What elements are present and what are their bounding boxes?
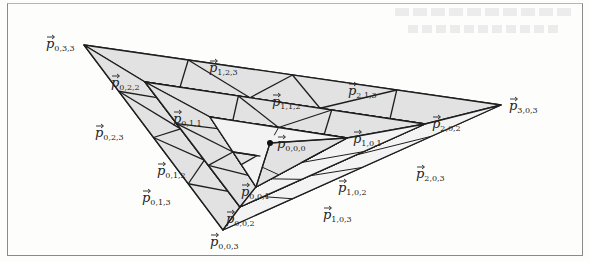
label-text: p1,2,3 xyxy=(209,60,238,77)
apex-point-dot xyxy=(267,140,273,146)
label-p003: p0,0,3 xyxy=(210,233,239,251)
label-text: p1,0,3 xyxy=(323,207,352,224)
label-text: p0,3,3 xyxy=(46,36,75,53)
label-p033: p0,3,3 xyxy=(46,35,75,53)
label-text: p0,2,3 xyxy=(95,125,124,142)
label-p303: p3,0,3 xyxy=(509,97,538,115)
level-2-zig-bottom xyxy=(271,179,302,180)
label-p103: p1,0,3 xyxy=(323,206,352,224)
label-text: p2,0,3 xyxy=(416,166,445,183)
label-text: p3,0,3 xyxy=(509,98,538,115)
control-net-diagram: p0,3,3p1,2,3p2,1,3p3,0,3p0,2,2p1,1,2p2,0… xyxy=(0,0,589,261)
label-p123: p1,2,3 xyxy=(209,59,238,77)
label-p023: p0,2,3 xyxy=(95,124,124,142)
label-text: p0,1,3 xyxy=(142,190,171,207)
label-text: p0,0,3 xyxy=(210,234,239,251)
label-p203: p2,0,3 xyxy=(416,165,445,183)
label-p102: p1,0,2 xyxy=(338,179,367,197)
label-text: p1,0,2 xyxy=(338,180,367,197)
label-p013: p0,1,3 xyxy=(142,189,171,207)
